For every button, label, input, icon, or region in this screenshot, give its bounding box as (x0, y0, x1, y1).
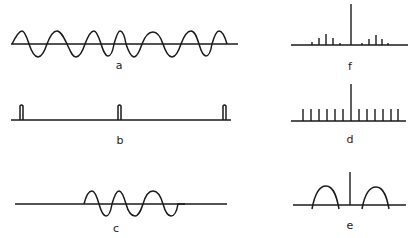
panel-f: f (291, 4, 408, 73)
panel-a-label: a (116, 59, 123, 72)
panel-e: e (293, 172, 406, 232)
panel-e-label: e (347, 219, 354, 232)
panel-d: d (291, 84, 406, 146)
panel-c-label: c (113, 222, 119, 235)
panel-d-label: d (347, 133, 354, 146)
panel-b-pulse-2 (118, 105, 121, 120)
panel-b-pulse-3 (223, 105, 226, 120)
panel-f-label: f (348, 60, 353, 73)
panel-b: b (11, 105, 231, 147)
panel-c: c (15, 191, 227, 235)
panel-b-pulse-1 (20, 105, 23, 120)
fourier-diagram: a b c f (0, 0, 413, 238)
panel-b-label: b (117, 134, 124, 147)
panel-a: a (11, 31, 238, 72)
